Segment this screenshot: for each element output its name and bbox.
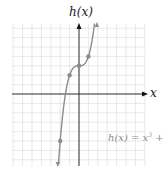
data-point: [77, 64, 81, 68]
function-graph: [0, 0, 164, 175]
data-point: [67, 73, 71, 77]
data-point: [58, 139, 62, 143]
equation-label: h(x) = x3 + 3: [108, 131, 164, 143]
curve-arrow-icon: [95, 22, 99, 27]
x-axis-label: x: [150, 86, 157, 100]
curve-arrow-icon: [56, 162, 60, 167]
data-point: [86, 54, 90, 58]
y-axis-arrow-icon: [77, 23, 82, 29]
y-axis-label: h(x): [69, 5, 93, 19]
